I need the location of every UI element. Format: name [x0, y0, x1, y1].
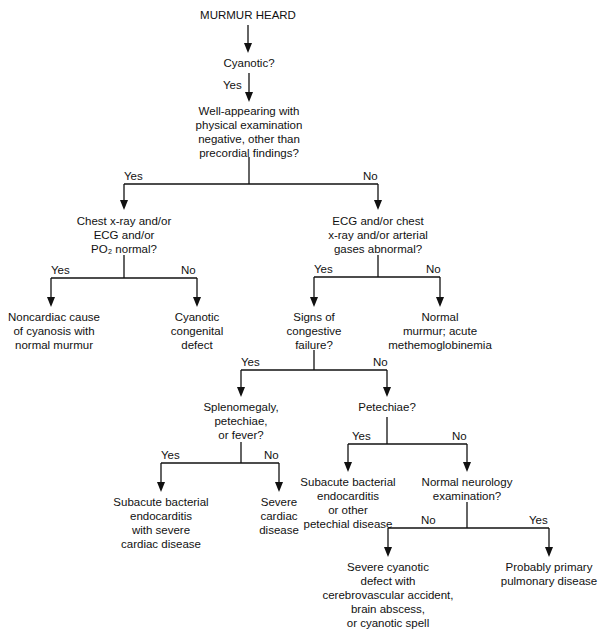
node-line: precordial findings?	[196, 146, 303, 160]
node-line: normal murmur	[8, 338, 100, 352]
node-line: or other	[300, 503, 395, 517]
arrowhead	[436, 297, 444, 307]
node-sbe-severe: Subacute bacterial endocarditis with sev…	[113, 495, 208, 551]
node-line: negative, other than	[196, 132, 303, 146]
arrowhead	[384, 547, 392, 557]
node-line: brain abscess,	[322, 602, 453, 616]
node-line: Probably primary	[501, 560, 598, 574]
node-severe-cyanotic: Severe cyanotic defect with cerebrovascu…	[322, 560, 453, 630]
edge-label-no: No	[264, 448, 279, 462]
arrowhead	[545, 547, 553, 557]
node-line: or cyanotic spell	[322, 616, 453, 630]
node-splenomegaly: Splenomegaly, petechiae, or fever?	[203, 400, 278, 442]
node-petechiae: Petechiae?	[358, 400, 416, 414]
arrowhead	[383, 387, 391, 397]
node-line: ECG and/or	[77, 228, 172, 242]
node-cyanotic: Cyanotic?	[223, 56, 274, 70]
node-well-appearing: Well-appearing with physical examination…	[196, 104, 303, 160]
arrowhead	[244, 43, 252, 53]
node-line: petechial disease	[300, 517, 395, 531]
node-line: Splenomegaly,	[203, 400, 278, 414]
node-line: defect with	[322, 574, 453, 588]
node-line: Chest x-ray and/or	[77, 214, 172, 228]
edge-label-yes: Yes	[223, 78, 242, 92]
node-line: Cyanotic	[171, 310, 223, 324]
edge-label-no: No	[421, 513, 436, 527]
node-sbe-other: Subacute bacterial endocarditis or other…	[300, 475, 395, 531]
node-line: pulmonary disease	[501, 574, 598, 588]
node-severe-cardiac: Severe cardiac disease	[259, 495, 299, 537]
node-line: gases abnormal?	[328, 242, 428, 256]
node-line: physical examination	[196, 118, 303, 132]
node-line: defect	[171, 338, 223, 352]
arrowhead	[237, 387, 245, 397]
node-cyanotic-congenital: Cyanotic congenital defect	[171, 310, 223, 352]
edge-label-yes: Yes	[124, 169, 143, 183]
edge-label-no: No	[452, 429, 467, 443]
node-line: congestive	[287, 324, 342, 338]
node-line: Well-appearing with	[196, 104, 303, 118]
edge-label-no: No	[426, 262, 441, 276]
node-normal-murmur: Normal murmur; acute methemoglobinemia	[388, 310, 492, 352]
node-murmur-heard: MURMUR HEARD	[200, 8, 296, 22]
node-line: Normal neurology	[422, 475, 513, 489]
node-line: methemoglobinemia	[388, 338, 492, 352]
node-line: endocarditis	[113, 509, 208, 523]
edge-label-yes: Yes	[241, 355, 260, 369]
node-line: cardiac disease	[113, 537, 208, 551]
node-ecg-abnormal: ECG and/or chest x-ray and/or arterial g…	[328, 214, 428, 256]
node-line: Signs of	[287, 310, 342, 324]
arrowhead	[374, 200, 382, 210]
node-line: Subacute bacterial	[113, 495, 208, 509]
flowchart: MURMUR HEARD Cyanotic? Well-appearing wi…	[0, 0, 605, 630]
arrowhead	[275, 482, 283, 492]
node-line: examination?	[422, 489, 513, 503]
arrowhead	[120, 200, 128, 210]
node-line: of cyanosis with	[8, 324, 100, 338]
node-line: PO₂ normal?	[77, 242, 172, 256]
node-signs-chf: Signs of congestive failure?	[287, 310, 342, 352]
node-chest-xray-normal: Chest x-ray and/or ECG and/or PO₂ normal…	[77, 214, 172, 256]
edge-label-no: No	[363, 169, 378, 183]
edge-label-yes: Yes	[352, 429, 371, 443]
arrowhead	[47, 297, 55, 307]
node-line: Severe cyanotic	[322, 560, 453, 574]
node-line: endocarditis	[300, 489, 395, 503]
arrowhead	[463, 462, 471, 472]
node-line: cerebrovascular accident,	[322, 588, 453, 602]
arrowhead	[157, 482, 165, 492]
node-line: disease	[259, 523, 299, 537]
node-line: failure?	[287, 338, 342, 352]
arrowhead	[344, 462, 352, 472]
node-neuro-exam: Normal neurology examination?	[422, 475, 513, 503]
node-line: congenital	[171, 324, 223, 338]
node-noncardiac: Noncardiac cause of cyanosis with normal…	[8, 310, 100, 352]
node-line: Severe	[259, 495, 299, 509]
node-line: Normal	[388, 310, 492, 324]
node-line: Noncardiac cause	[8, 310, 100, 324]
node-line: cardiac	[259, 509, 299, 523]
node-line: Subacute bacterial	[300, 475, 395, 489]
node-line: x-ray and/or arterial	[328, 228, 428, 242]
node-line: or fever?	[203, 428, 278, 442]
edge-label-no: No	[373, 355, 388, 369]
arrowhead	[310, 297, 318, 307]
node-line: murmur; acute	[388, 324, 492, 338]
node-pulmonary: Probably primary pulmonary disease	[501, 560, 598, 588]
edge-label-yes: Yes	[314, 262, 333, 276]
edge-label-yes: Yes	[161, 448, 180, 462]
arrowhead	[193, 297, 201, 307]
node-line: ECG and/or chest	[328, 214, 428, 228]
edge-label-yes: Yes	[51, 263, 70, 277]
node-line: petechiae,	[203, 414, 278, 428]
edge-label-no: No	[181, 263, 196, 277]
node-line: with severe	[113, 523, 208, 537]
edge-label-yes: Yes	[529, 513, 548, 527]
arrowhead	[245, 92, 253, 102]
